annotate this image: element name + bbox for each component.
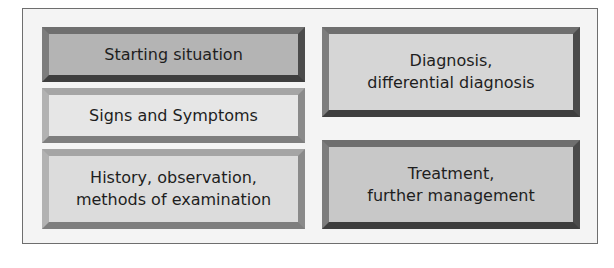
box-label-line-1: Diagnosis, [410,50,493,72]
box-label-line-1: History, observation, [90,167,257,189]
box-label-line-2: further management [367,185,534,207]
box-label-line-2: differential diagnosis [367,72,534,94]
box-history-observation: History, observation, methods of examina… [42,149,305,229]
box-diagnosis: Diagnosis, differential diagnosis [322,27,580,117]
box-label: Signs and Symptoms [89,105,258,127]
box-signs-and-symptoms: Signs and Symptoms [42,88,305,143]
box-starting-situation: Starting situation [42,27,305,82]
box-label-line-2: methods of examination [76,189,271,211]
box-label-line-1: Treatment, [408,163,495,185]
box-label: Starting situation [104,44,243,66]
box-treatment: Treatment, further management [322,140,580,229]
